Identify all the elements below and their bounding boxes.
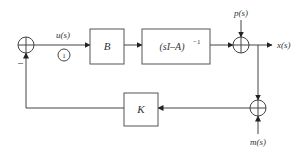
summing-junction-disturbance	[233, 37, 249, 53]
signal-x-label: x(s)	[276, 40, 291, 50]
block-plant-label: (sI–A)	[160, 41, 186, 53]
signal-p-label: p(s)	[233, 8, 248, 18]
block-k-label: K	[136, 103, 145, 115]
block-plant-exponent: −1	[193, 38, 201, 46]
feedback-minus-sign: –	[17, 57, 24, 68]
summing-junction-input	[18, 37, 34, 53]
feedback-line	[26, 53, 124, 108]
block-k: K	[124, 93, 158, 126]
unit-marker: 1	[58, 49, 70, 61]
summing-junction-noise	[250, 100, 266, 116]
signal-u-label: u(s)	[56, 30, 70, 40]
block-b: B	[90, 29, 124, 64]
unit-marker-label: 1	[62, 52, 66, 60]
block-plant: (sI–A) −1	[142, 29, 210, 64]
block-b-label: B	[104, 40, 111, 52]
signal-m-label: m(s)	[250, 137, 266, 147]
block-diagram: – u(s) 1 B (sI–A) −1 p(s) x(s) m	[0, 0, 303, 152]
